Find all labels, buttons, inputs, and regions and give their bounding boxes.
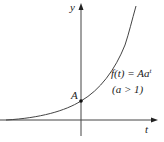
y-intercept-point: [79, 99, 83, 103]
y-axis-label: y: [69, 1, 75, 13]
t-axis-label: t: [145, 123, 149, 135]
condition-label: (a > 1): [112, 83, 144, 96]
point-a-label: A: [70, 89, 78, 101]
exponential-graph: y t A f(t) = Aat (a > 1): [0, 0, 164, 142]
function-label: f(t) = Aat: [111, 67, 152, 80]
y-axis-arrow-icon: [79, 3, 84, 10]
exponential-curve: [6, 6, 136, 120]
t-axis-arrow-icon: [151, 118, 158, 123]
